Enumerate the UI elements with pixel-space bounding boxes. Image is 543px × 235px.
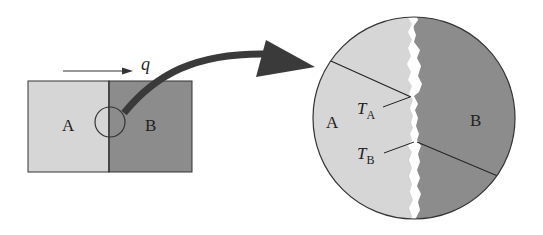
heat-flow-indicator: q	[63, 54, 150, 75]
temperature-b-subscript: B	[366, 153, 374, 167]
diagram-canvas: A B q	[0, 0, 543, 235]
heat-flow-arrow-head	[122, 68, 133, 75]
diagram-svg: A B q	[0, 0, 543, 235]
left-block: A B	[28, 81, 192, 172]
magnified-region-a	[300, 10, 420, 230]
magnified-label-a: A	[326, 113, 339, 132]
left-label-a: A	[62, 116, 75, 135]
magnified-label-b: B	[470, 111, 481, 130]
magnified-view: A B TA TB	[300, 10, 534, 230]
left-label-b: B	[145, 116, 156, 135]
temperature-a-subscript: A	[366, 108, 375, 122]
magnify-arrow-head	[256, 40, 315, 77]
heat-flow-label: q	[141, 54, 150, 74]
